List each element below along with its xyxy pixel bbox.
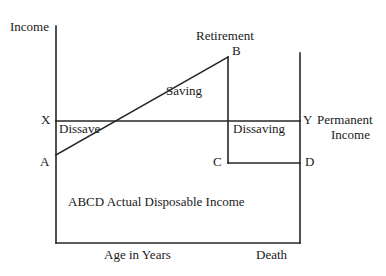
x-axis-label: Age in Years [104,248,171,263]
abcd-caption: ABCD Actual Disposable Income [68,195,245,210]
point-label-x: X [41,113,50,128]
dissave-annotation: Dissave [59,122,100,137]
death-label: Death [256,248,287,263]
point-label-c: C [213,155,222,170]
saving-annotation: Saving [166,84,202,99]
permanent-income-label-line2: Income [317,128,373,143]
point-label-b: B [232,44,241,59]
point-label-a: A [40,155,49,170]
retirement-annotation: Retirement [196,29,254,44]
y-axis-label: Income [10,20,49,35]
point-label-y: Y [303,113,312,128]
permanent-income-label-line1: Permanent [317,112,373,127]
dissaving-annotation: Dissaving [233,122,285,137]
permanent-income-label: Permanent Income [317,113,373,142]
income-growth-line-ab [56,57,228,155]
life-cycle-income-diagram: Income Age in Years Death Retirement B A… [0,0,386,276]
point-label-d: D [305,155,314,170]
